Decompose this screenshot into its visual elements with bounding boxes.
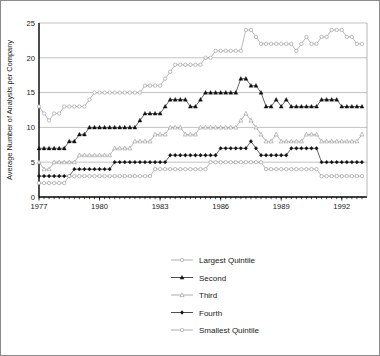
data-point — [63, 105, 66, 108]
data-point — [52, 112, 55, 115]
data-point — [68, 105, 71, 108]
data-point — [269, 42, 272, 45]
legend-item-third[interactable]: Third — [171, 291, 217, 300]
y-tick-label-15: 15 — [27, 88, 35, 97]
data-point — [194, 63, 197, 66]
data-point — [259, 42, 262, 45]
series-line — [39, 113, 362, 169]
data-point — [249, 28, 252, 31]
data-point — [360, 42, 363, 45]
data-point — [83, 174, 86, 177]
data-point — [335, 28, 338, 31]
data-point — [103, 174, 106, 177]
data-point — [93, 167, 96, 171]
data-point — [335, 174, 338, 177]
data-point — [83, 167, 86, 171]
data-point — [199, 63, 202, 66]
data-point — [63, 181, 66, 184]
data-point — [118, 174, 121, 177]
data-point — [295, 146, 298, 150]
legend-item-second[interactable]: Second — [171, 274, 226, 283]
data-point — [239, 49, 242, 52]
data-point — [143, 84, 146, 87]
data-point — [284, 97, 288, 101]
data-point — [310, 42, 313, 45]
data-point — [153, 167, 156, 170]
data-point — [300, 167, 303, 170]
figure-frame: 0510152025Average Number of Analysts per… — [0, 0, 380, 356]
data-point — [148, 84, 151, 87]
data-point — [133, 174, 136, 177]
data-point — [108, 91, 111, 94]
data-point — [179, 153, 182, 157]
legend-item-largest-quintile[interactable]: Largest Quintile — [171, 256, 256, 265]
data-point — [42, 174, 45, 178]
data-point — [219, 49, 222, 52]
data-point — [184, 153, 187, 157]
data-point — [269, 153, 272, 157]
data-point — [128, 174, 131, 177]
data-point — [264, 42, 267, 45]
data-point — [98, 167, 101, 171]
data-point — [280, 167, 283, 170]
data-point — [189, 153, 192, 157]
data-point — [360, 174, 363, 177]
data-point — [180, 311, 183, 315]
data-point — [355, 174, 358, 177]
data-point — [138, 160, 141, 164]
legend-item-smallest-quintile[interactable]: Smallest Quintile — [171, 326, 260, 335]
data-point — [350, 160, 353, 164]
x-tick-label-1980: 1980 — [91, 202, 108, 211]
data-point — [163, 77, 166, 80]
data-point — [78, 105, 81, 108]
data-point — [214, 49, 217, 52]
data-point — [224, 161, 227, 164]
data-point — [330, 28, 333, 31]
data-point — [189, 63, 192, 66]
data-point — [345, 160, 348, 164]
legend-item-fourth[interactable]: Fourth — [171, 309, 222, 318]
data-point — [280, 42, 283, 45]
data-point — [244, 28, 247, 31]
data-point — [184, 63, 187, 66]
data-point — [123, 174, 126, 177]
data-point — [47, 181, 50, 184]
data-point — [320, 160, 323, 164]
x-tick-label-1986: 1986 — [212, 202, 229, 211]
data-point — [274, 97, 278, 101]
data-point — [295, 49, 298, 52]
legend-label: Largest Quintile — [199, 256, 256, 265]
data-point — [174, 153, 177, 157]
data-point — [174, 63, 177, 66]
data-point — [325, 160, 328, 164]
data-point — [148, 160, 151, 164]
data-point — [285, 42, 288, 45]
data-point — [199, 153, 202, 157]
data-point — [214, 161, 217, 164]
data-point — [118, 160, 121, 164]
data-point — [158, 84, 161, 87]
data-point — [83, 105, 86, 108]
data-point — [179, 167, 182, 170]
data-point — [37, 105, 40, 108]
data-point — [209, 161, 212, 164]
data-point — [290, 167, 293, 170]
data-point — [93, 174, 96, 177]
data-point — [143, 160, 146, 164]
analysts-per-company-line-chart: 0510152025Average Number of Analysts per… — [1, 1, 380, 356]
data-point — [57, 174, 60, 178]
x-tick-label-1989: 1989 — [273, 202, 290, 211]
data-point — [234, 49, 237, 52]
series-line — [39, 79, 362, 149]
data-point — [325, 174, 328, 177]
data-point — [78, 174, 81, 177]
data-point — [310, 167, 313, 170]
data-point — [113, 91, 116, 94]
data-point — [360, 160, 363, 164]
data-point — [350, 35, 353, 38]
data-point — [37, 181, 40, 184]
data-point — [37, 174, 40, 178]
y-tick-label-10: 10 — [27, 123, 35, 132]
data-point — [239, 146, 242, 150]
data-point — [68, 174, 71, 177]
